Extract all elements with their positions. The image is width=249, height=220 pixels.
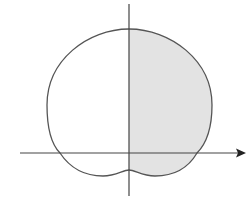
polar-curve-diagram <box>0 0 249 220</box>
diagram <box>0 0 249 220</box>
